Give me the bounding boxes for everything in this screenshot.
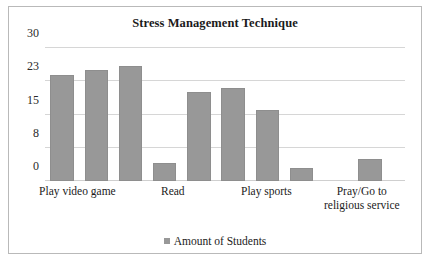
- x-label-line: Play sports: [241, 184, 292, 198]
- x-label-line: Pray/Go to: [324, 184, 400, 198]
- x-label-line: religious service: [324, 198, 400, 212]
- plot-area: 08152330: [45, 48, 405, 181]
- bar: [290, 168, 313, 181]
- y-tick-label: 30: [27, 26, 39, 41]
- bar: [187, 92, 210, 181]
- bar: [85, 70, 108, 181]
- bar: [256, 110, 279, 181]
- bar: [50, 75, 73, 181]
- bar: [119, 66, 142, 181]
- chart-frame: Stress Management Technique 08152330 Pla…: [8, 6, 422, 254]
- x-category-label: Play video game: [39, 184, 116, 198]
- y-tick-label: 8: [33, 125, 39, 140]
- x-label-line: Play video game: [39, 184, 116, 198]
- bar: [221, 88, 244, 181]
- x-category-label: Pray/Go toreligious service: [324, 184, 400, 212]
- x-axis-category-labels: Play video gameReadPlay sportsPray/Go to…: [45, 184, 405, 226]
- chart-title: Stress Management Technique: [9, 16, 421, 31]
- chart-legend: Amount of Students: [9, 235, 421, 247]
- y-tick-label: 0: [33, 159, 39, 174]
- y-tick-label: 23: [27, 59, 39, 74]
- x-category-label: Read: [161, 184, 185, 198]
- legend-swatch-icon: [164, 238, 170, 244]
- legend-label: Amount of Students: [174, 235, 267, 247]
- bar: [153, 163, 176, 181]
- x-category-label: Play sports: [241, 184, 292, 198]
- bar-series: [45, 48, 405, 181]
- y-tick-label: 15: [27, 92, 39, 107]
- x-label-line: Read: [161, 184, 185, 198]
- bar: [358, 159, 381, 181]
